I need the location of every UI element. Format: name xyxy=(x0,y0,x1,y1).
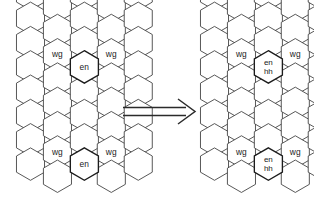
arrow-head-icon xyxy=(178,99,195,124)
hex-label: wg xyxy=(105,147,117,157)
hex-label: wg xyxy=(105,49,117,59)
hex-label: wg xyxy=(51,49,63,59)
hex-cell xyxy=(281,160,309,192)
hex-cell xyxy=(227,160,255,192)
hex-label: hh xyxy=(264,67,273,76)
hex-cell xyxy=(200,148,228,180)
hex-label: wg xyxy=(51,147,63,157)
hex-label: wg xyxy=(289,147,301,157)
hex-cell xyxy=(16,148,44,180)
hex-label: hh xyxy=(264,164,273,173)
hex-label: en xyxy=(80,159,90,169)
hex-transformation-figure: wgwgenenwgwg wgwgenhhenhhwgwg xyxy=(0,0,314,217)
hex-cell xyxy=(97,160,125,192)
hex-cell xyxy=(124,148,152,180)
hex-cell xyxy=(43,160,71,192)
hex-label: en xyxy=(264,58,273,67)
hex-label: wg xyxy=(235,49,247,59)
hex-label: en xyxy=(264,155,273,164)
hex-label: en xyxy=(80,62,90,72)
hex-label: wg xyxy=(235,147,247,157)
target-hex-grid xyxy=(200,0,314,192)
hex-label: wg xyxy=(289,49,301,59)
